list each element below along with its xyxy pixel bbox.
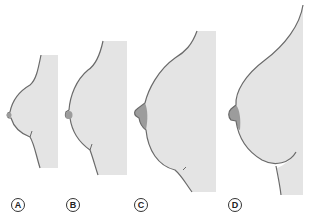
nipple-b [66, 111, 73, 119]
panel-c-profile [135, 31, 216, 192]
breast-development-illustration [0, 0, 316, 216]
panel-label-c: C [134, 198, 148, 212]
panel-d-profile [229, 5, 303, 195]
panel-label-a: A [11, 198, 25, 212]
panel-a-profile [7, 55, 59, 168]
nipple-a [7, 113, 12, 118]
panel-label-d: D [228, 198, 242, 212]
panel-b-profile [65, 41, 127, 175]
panel-label-b: B [66, 198, 80, 212]
